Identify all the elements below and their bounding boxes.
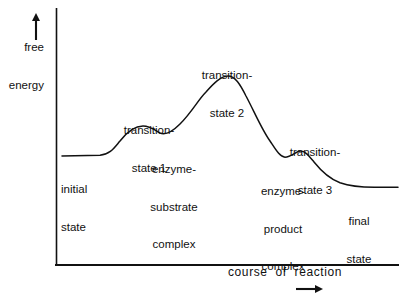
initial-state-line1: initial [61, 183, 87, 196]
ts3-line1: transition- [276, 146, 354, 159]
final-state-line1: final [334, 215, 384, 228]
y-axis-label-line1: free [0, 41, 44, 54]
free-energy-reaction-diagram: free energy course of reaction initial s… [0, 0, 405, 299]
annotation-transition-state-2: transition- state 2 [187, 44, 267, 144]
y-axis-label: free energy [0, 16, 44, 116]
final-state-line2: state [334, 253, 384, 266]
ep-complex-line2: product [246, 223, 320, 236]
ep-complex-line1: enzyme- [246, 185, 320, 198]
ts2-line1: transition- [187, 69, 267, 82]
annotation-initial-state: initial state [61, 158, 87, 258]
annotation-final-state: final state [334, 190, 384, 290]
y-axis-label-line2: energy [0, 79, 44, 92]
es-complex-line1: enzyme- [137, 163, 211, 176]
initial-state-line2: state [61, 221, 87, 234]
annotation-enzyme-substrate-complex: enzyme- substrate complex [137, 138, 211, 276]
es-complex-line2: substrate [137, 201, 211, 214]
annotation-enzyme-product-complex: enzyme- product complex [246, 160, 320, 298]
ep-complex-line3: complex [246, 260, 320, 273]
ts2-line2: state 2 [187, 107, 267, 120]
es-complex-line3: complex [137, 238, 211, 251]
ts1-line1: transition- [113, 124, 185, 137]
